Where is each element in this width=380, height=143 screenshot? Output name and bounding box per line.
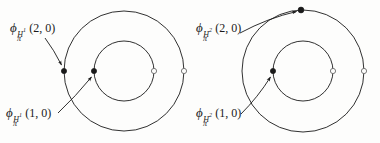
left-arrow-to-outer-marker bbox=[45, 38, 62, 65]
superscript-index: 1 bbox=[19, 112, 22, 118]
superscript-index: 2 bbox=[209, 27, 212, 33]
left-panel bbox=[45, 11, 187, 131]
right-open-marker-outer-right bbox=[361, 68, 366, 73]
label-right-lower: ϕH2π(1, 0) bbox=[196, 106, 241, 119]
right-panel bbox=[240, 7, 367, 132]
right-filled-marker-outer-top bbox=[298, 7, 304, 13]
right-arrow-to-outer-marker bbox=[240, 12, 297, 34]
left-open-marker-outer-right bbox=[181, 68, 186, 73]
label-arguments: (2, 0) bbox=[29, 21, 55, 35]
superscript-index: 1 bbox=[23, 27, 26, 33]
diagram-svg bbox=[0, 0, 380, 143]
superscript-index: 2 bbox=[209, 112, 212, 118]
figure-canvas: ϕH1π(2, 0) ϕH1π(1, 0) ϕH2π(2, 0) ϕH2π(1,… bbox=[0, 0, 380, 143]
subscript-letter: π bbox=[13, 120, 17, 128]
label-left-lower: ϕH1π(1, 0) bbox=[6, 106, 51, 119]
right-filled-marker-inner-left bbox=[270, 68, 275, 73]
right-inner-circle bbox=[273, 41, 333, 101]
subscript-letter: π bbox=[203, 35, 207, 43]
phi-symbol: ϕ bbox=[196, 20, 203, 35]
left-open-marker-inner-right bbox=[151, 68, 156, 73]
left-inner-circle bbox=[94, 41, 154, 101]
right-outer-circle bbox=[242, 10, 364, 132]
label-arguments: (1, 0) bbox=[215, 106, 241, 120]
phi-symbol: ϕ bbox=[6, 105, 13, 120]
subscript-letter: π bbox=[17, 35, 21, 43]
phi-symbol: ϕ bbox=[10, 20, 17, 35]
right-arrow-to-inner-marker bbox=[241, 77, 271, 114]
right-open-marker-inner-right bbox=[330, 68, 335, 73]
left-filled-marker-inner-left bbox=[91, 68, 96, 73]
left-filled-marker-outer-left bbox=[61, 68, 66, 73]
label-right-upper: ϕH2π(2, 0) bbox=[196, 21, 241, 34]
left-arrow-to-inner-marker bbox=[58, 77, 92, 113]
subscript-letter: π bbox=[203, 120, 207, 128]
label-arguments: (2, 0) bbox=[215, 21, 241, 35]
label-left-upper: ϕH1π(2, 0) bbox=[10, 21, 55, 34]
phi-symbol: ϕ bbox=[196, 105, 203, 120]
label-arguments: (1, 0) bbox=[25, 106, 51, 120]
left-outer-circle bbox=[64, 11, 184, 131]
